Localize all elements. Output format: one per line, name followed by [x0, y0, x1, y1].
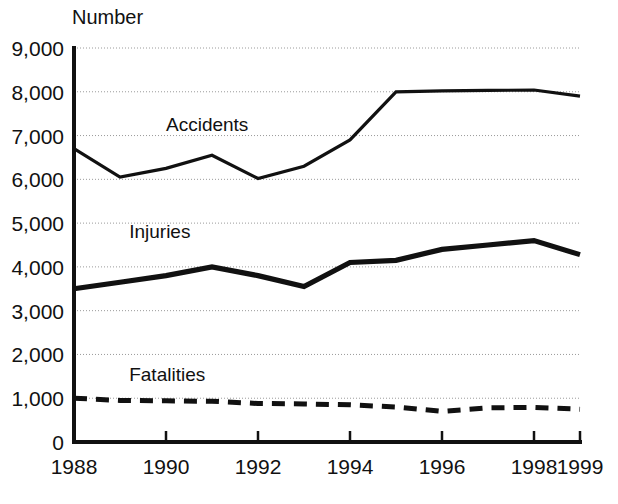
y-tick-label-4000: 4,000	[11, 256, 64, 279]
series-inline-labels: AccidentsInjuriesFatalities	[129, 114, 248, 385]
chart-canvas: 01,0002,0003,0004,0005,0006,0007,0008,00…	[0, 0, 618, 504]
y-axis-title: Number	[72, 6, 143, 28]
series-line-fatalities	[74, 398, 580, 411]
y-tick-label-1000: 1,000	[11, 387, 64, 410]
series-label-fatalities: Fatalities	[129, 364, 205, 385]
series-line-accidents	[74, 90, 580, 178]
x-tick-labels: 1988199019921994199619981999	[51, 455, 604, 478]
x-tick-label-1999: 1999	[557, 455, 604, 478]
series-line-injuries	[74, 241, 580, 289]
x-tick-label-1990: 1990	[143, 455, 190, 478]
x-tick-label-1988: 1988	[51, 455, 98, 478]
y-tick-label-8000: 8,000	[11, 81, 64, 104]
x-tick-label-1994: 1994	[327, 455, 374, 478]
y-tick-label-0: 0	[52, 431, 64, 454]
y-tick-label-2000: 2,000	[11, 343, 64, 366]
y-tick-labels: 01,0002,0003,0004,0005,0006,0007,0008,00…	[11, 37, 64, 454]
series-label-accidents: Accidents	[166, 114, 248, 135]
x-tick-label-1998: 1998	[511, 455, 558, 478]
y-tick-label-3000: 3,000	[11, 300, 64, 323]
y-tick-label-9000: 9,000	[11, 37, 64, 60]
x-tick-label-1992: 1992	[235, 455, 282, 478]
series-label-injuries: Injuries	[129, 221, 190, 242]
y-tick-label-6000: 6,000	[11, 168, 64, 191]
y-tick-label-7000: 7,000	[11, 125, 64, 148]
y-tick-label-5000: 5,000	[11, 212, 64, 235]
x-tick-label-1996: 1996	[419, 455, 466, 478]
line-chart: 01,0002,0003,0004,0005,0006,0007,0008,00…	[0, 0, 618, 504]
